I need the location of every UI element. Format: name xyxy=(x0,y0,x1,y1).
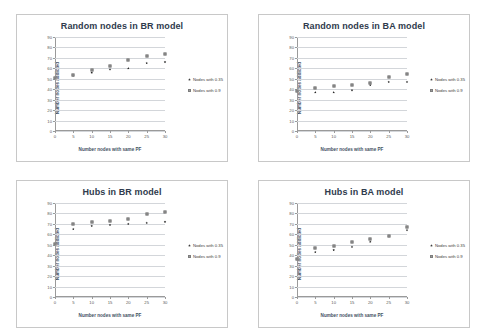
x-axis-tick-mark xyxy=(334,297,335,299)
data-point xyxy=(369,237,372,240)
y-axis-tick-mark xyxy=(295,266,297,267)
legend-item: Nodes with 0.35 xyxy=(430,77,465,82)
gridline xyxy=(297,203,407,204)
y-axis-tick-mark xyxy=(53,266,55,267)
data-point xyxy=(296,90,299,93)
gridline xyxy=(55,121,165,122)
y-axis-tick-label: 60 xyxy=(289,66,294,71)
y-axis-tick-label: 90 xyxy=(289,35,294,40)
legend-label: Nodes with 0.35 xyxy=(193,77,223,82)
y-axis-tick-label: 90 xyxy=(47,201,52,206)
y-axis-tick-label: 40 xyxy=(47,87,52,92)
data-point xyxy=(72,222,75,225)
y-axis-tick-label: 50 xyxy=(47,76,52,81)
legend-marker-icon xyxy=(430,89,433,92)
y-axis-tick-mark xyxy=(295,100,297,101)
plot-area: 0102030405060708090051015202530 xyxy=(55,203,165,297)
y-axis-line xyxy=(297,37,298,131)
y-axis-tick-mark xyxy=(295,47,297,48)
y-axis-tick-mark xyxy=(295,203,297,204)
data-point xyxy=(145,62,148,65)
gridline xyxy=(297,287,407,288)
x-axis-tick-mark xyxy=(315,131,316,133)
x-axis-tick-label: 25 xyxy=(144,134,149,139)
legend-item: Nodes with 0.35 xyxy=(188,243,223,248)
gridline xyxy=(55,47,165,48)
y-axis-tick-label: 90 xyxy=(289,201,294,206)
y-axis-tick-label: 80 xyxy=(289,211,294,216)
y-axis-tick-label: 60 xyxy=(47,232,52,237)
data-point xyxy=(369,81,372,84)
gridline xyxy=(297,213,407,214)
x-axis-tick-label: 30 xyxy=(405,300,410,305)
legend: Nodes with 0.35Nodes with 0.9 xyxy=(430,243,465,259)
y-axis-tick-label: 80 xyxy=(289,45,294,50)
gridline xyxy=(297,58,407,59)
x-axis-tick-label: 15 xyxy=(350,300,355,305)
y-axis-tick-label: 30 xyxy=(47,97,52,102)
y-axis-tick-mark xyxy=(295,58,297,59)
plot-area: 0102030405060708090051015202530 xyxy=(55,37,165,131)
y-axis-tick-mark xyxy=(295,245,297,246)
y-axis-tick-mark xyxy=(53,68,55,69)
x-axis-tick-mark xyxy=(147,297,148,299)
y-axis-tick-mark xyxy=(53,89,55,90)
gridline xyxy=(297,79,407,80)
legend-marker-icon xyxy=(188,89,191,92)
gridline xyxy=(297,68,407,69)
y-axis-tick-label: 30 xyxy=(47,263,52,268)
data-point xyxy=(332,85,335,88)
y-axis-tick-mark xyxy=(295,68,297,69)
x-axis-tick-label: 5 xyxy=(314,300,316,305)
y-axis-tick-mark xyxy=(53,121,55,122)
y-axis-tick-label: 20 xyxy=(289,108,294,113)
x-axis-tick-mark xyxy=(407,131,408,133)
chart-panel-random-ba: Random nodes in BA model Number nodes ad… xyxy=(258,14,470,162)
y-axis-tick-label: 50 xyxy=(47,242,52,247)
x-axis-tick-label: 0 xyxy=(296,134,298,139)
gridline xyxy=(55,89,165,90)
data-point xyxy=(54,242,57,245)
gridline xyxy=(297,110,407,111)
data-point xyxy=(145,213,148,216)
gridline xyxy=(297,234,407,235)
legend-item: Nodes with 0.9 xyxy=(430,88,465,93)
x-axis-tick-mark xyxy=(147,131,148,133)
legend-label: Nodes with 0.35 xyxy=(193,243,223,248)
gridline xyxy=(297,37,407,38)
legend-marker-icon xyxy=(430,244,433,247)
y-axis-tick-label: 0 xyxy=(292,295,294,300)
x-axis-tick-mark xyxy=(92,131,93,133)
x-axis-label: Number nodes with same PF xyxy=(297,147,407,152)
y-axis-tick-mark xyxy=(295,255,297,256)
y-axis-tick-mark xyxy=(53,100,55,101)
legend-marker-icon xyxy=(188,255,191,258)
legend-item: Nodes with 0.9 xyxy=(188,254,223,259)
data-point xyxy=(332,249,335,252)
y-axis-tick-mark xyxy=(53,276,55,277)
x-axis-tick-mark xyxy=(297,131,298,133)
y-axis-tick-mark xyxy=(295,79,297,80)
x-axis-label: Number nodes with same PF xyxy=(297,313,407,318)
legend-label: Nodes with 0.9 xyxy=(193,254,221,259)
x-axis-tick-mark xyxy=(110,297,111,299)
legend-label: Nodes with 0.9 xyxy=(193,88,221,93)
x-axis-tick-mark xyxy=(165,297,166,299)
y-axis-tick-label: 70 xyxy=(289,55,294,60)
legend: Nodes with 0.35Nodes with 0.9 xyxy=(430,77,465,93)
plot-area: 0102030405060708090051015202530 xyxy=(297,37,407,131)
y-axis-tick-mark xyxy=(53,110,55,111)
y-axis-tick-mark xyxy=(53,287,55,288)
y-axis-tick-label: 10 xyxy=(47,118,52,123)
data-point xyxy=(72,228,75,231)
gridline xyxy=(55,37,165,38)
x-axis-tick-mark xyxy=(55,131,56,133)
legend-marker-icon xyxy=(188,78,191,81)
x-axis-tick-mark xyxy=(334,131,335,133)
data-point xyxy=(387,75,390,78)
y-axis-tick-label: 30 xyxy=(289,97,294,102)
x-axis-tick-label: 15 xyxy=(108,134,113,139)
y-axis-tick-label: 0 xyxy=(50,295,52,300)
legend-item: Nodes with 0.9 xyxy=(430,254,465,259)
y-axis-line xyxy=(55,203,56,297)
